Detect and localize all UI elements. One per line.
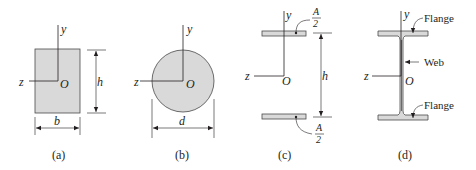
z-axis-label: z [244,69,250,83]
z-axis-label: z [18,75,24,89]
origin-label: O [405,74,414,88]
bottom-area-numerator: A [315,122,323,133]
y-axis-label: y [186,22,193,36]
origin-label: O [60,77,69,91]
caption-a: (a) [52,148,65,162]
bottom-flange-label: Flange [424,99,454,111]
h-dimension-label: h [322,69,328,83]
panel-a-rectangle: y z O h b (a) [18,22,106,162]
b-dimension-label: b [54,114,60,128]
bottom-area-leader [296,117,312,134]
d-dimension-label: d [179,114,186,128]
cross-sections-figure: y z O h b (a) y z O d (b) y z O [0,0,476,170]
caption-b: (b) [175,148,189,162]
panel-d-i-beam: y z O Flange Web Flange (d) [363,7,454,162]
y-axis-label: y [403,7,410,21]
top-area-leader-dot [295,32,297,34]
y-axis-label: y [60,22,67,36]
web-label: Web [424,56,444,68]
caption-c: (c) [278,148,291,162]
top-flange-label: Flange [424,12,454,24]
bottom-area-leader-dot [295,116,297,118]
origin-label: O [282,74,291,88]
z-axis-label: z [133,75,139,89]
caption-d: (d) [398,148,412,162]
z-axis-label: z [363,69,369,83]
h-dimension-label: h [97,75,103,89]
bottom-flange [262,114,306,119]
i-beam-section [378,31,428,120]
origin-label: O [186,77,195,91]
panel-c-flanges: y z O A 2 A 2 h (c) [244,6,332,162]
top-area-denominator: 2 [313,18,318,29]
panel-b-circle: y z O d (b) [133,22,214,162]
y-axis-label: y [285,8,292,22]
bottom-area-denominator: 2 [316,134,321,145]
top-area-numerator: A [312,6,320,17]
